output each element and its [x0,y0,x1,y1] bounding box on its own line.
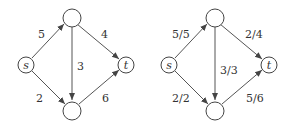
node-bottom [206,102,224,120]
edge-label-top-bottom: 3/3 [220,64,238,77]
edge-label-s-top: 5 [38,28,45,41]
node-t-label: t [124,59,129,72]
edge-label-top-t: 4 [101,28,108,41]
flow-graph: s t 5/5 2/4 3/3 2/2 5/6 [161,9,277,120]
edge-label-s-bottom: 2/2 [172,92,190,105]
node-t-label: t [267,59,272,72]
node-bottom [63,102,81,120]
capacity-graph: s t 5 4 3 2 6 [18,9,134,120]
edge-label-s-top: 5/5 [172,28,190,41]
node-top [63,9,81,27]
edge-label-top-t: 2/4 [245,28,263,41]
edge-label-s-bottom: 2 [36,92,43,105]
edge-label-bottom-t: 5/6 [246,92,264,105]
node-s-label: s [23,59,29,72]
node-top [206,9,224,27]
edge-label-top-bottom: 3 [77,60,84,73]
node-s-label: s [166,59,172,72]
edge-bottom-t [79,70,119,104]
edge-top-t [77,24,119,59]
edge-s-top [32,24,64,58]
flow-network-diagram: s t 5 4 3 2 6 s t 5/5 2/4 3/3 2/2 5/6 [0,0,288,128]
edge-label-bottom-t: 6 [102,92,109,105]
